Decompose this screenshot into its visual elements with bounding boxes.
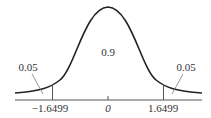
left-tail-area-label: 0.05 [18, 61, 38, 73]
x-tick-label-center: 0 [105, 102, 111, 114]
right-tail-area-label: 0.05 [176, 61, 196, 73]
normal-distribution-diagram: 0.9 0.05 0.05 −1.6499 0 1.6499 [0, 0, 211, 118]
x-tick-label-left: −1.6499 [32, 102, 69, 114]
x-tick-label-right: 1.6499 [148, 102, 179, 114]
center-area-label: 0.9 [101, 46, 115, 58]
